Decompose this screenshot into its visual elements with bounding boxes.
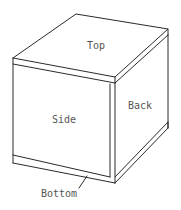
bottom-leader-line (79, 176, 87, 188)
label-side: Side (52, 114, 76, 125)
bottom-panel (13, 122, 168, 183)
label-top: Top (87, 40, 105, 51)
label-bottom: Bottom (41, 188, 77, 199)
label-back: Back (128, 100, 152, 111)
box-diagram: Top Side Back Bottom (0, 0, 181, 210)
